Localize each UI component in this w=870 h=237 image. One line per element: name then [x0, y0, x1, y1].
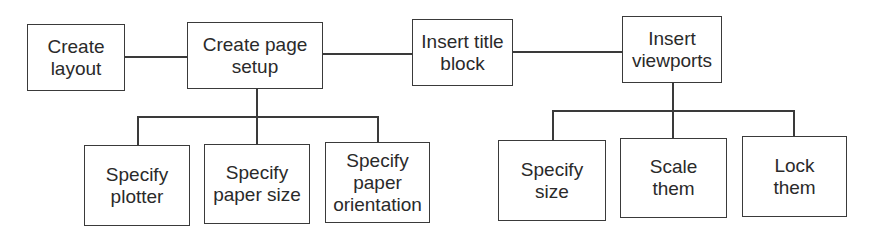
connector-page-setup-to-title-block [323, 53, 412, 55]
node-label: Specify plotter [106, 164, 168, 208]
connector-to-specify-paper-orientation [377, 116, 379, 142]
connector-page-setup-bar [137, 116, 378, 118]
node-label: Specify paper size [213, 162, 301, 206]
node-label: Specify paper orientation [333, 150, 422, 216]
node-label: Lock them [773, 155, 815, 199]
node-scale-them: Scale them [620, 138, 727, 218]
node-label: Insert title block [421, 31, 503, 75]
connector-title-block-to-viewports [513, 51, 622, 53]
node-specify-paper-size: Specify paper size [204, 144, 310, 224]
node-lock-them: Lock them [742, 136, 847, 217]
node-create-layout: Create layout [27, 24, 125, 91]
node-label: Specify size [521, 159, 583, 203]
node-specify-paper-orientation: Specify paper orientation [325, 142, 430, 223]
node-insert-title-block: Insert title block [412, 19, 513, 86]
connector-to-specify-plotter [137, 116, 139, 145]
connector-to-specify-paper-size [256, 116, 258, 144]
connector-page-setup-trunk [256, 89, 258, 117]
node-label: Create page setup [203, 34, 308, 78]
connector-viewports-trunk [672, 83, 674, 111]
connector-to-scale-them [672, 110, 674, 138]
node-specify-plotter: Specify plotter [84, 145, 190, 226]
node-label: Insert viewports [632, 28, 712, 72]
connector-layout-to-page-setup [125, 56, 187, 58]
node-insert-viewports: Insert viewports [622, 16, 722, 83]
node-label: Scale them [650, 156, 698, 200]
node-label: Create layout [47, 36, 104, 80]
node-create-page-setup: Create page setup [187, 22, 323, 89]
node-specify-size: Specify size [498, 140, 606, 221]
connector-to-specify-size [552, 110, 554, 140]
connector-to-lock-them [793, 110, 795, 136]
